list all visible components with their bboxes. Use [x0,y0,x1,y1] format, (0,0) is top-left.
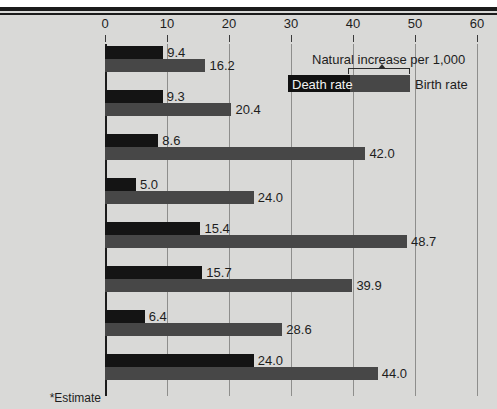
value-label-birth-rate: 39.9 [356,279,381,292]
bar-death-rate [105,46,163,59]
legend-swatch-birth-rate [350,75,410,92]
axis-tick-0 [105,35,106,42]
chart-row: 15.739.9India [105,266,477,292]
value-label-birth-rate: 28.6 [286,323,311,336]
bar-birth-rate [105,235,407,248]
gridline-60 [477,44,478,396]
axis-label-20: 20 [222,16,236,31]
axis-label-50: 50 [408,16,422,31]
bar-birth-rate [105,103,231,116]
axis-label-0: 0 [101,16,108,31]
bar-birth-rate [105,279,352,292]
value-label-death-rate: 15.7 [206,266,231,279]
chart-row: 15.448.7Algeria [105,222,477,248]
bar-death-rate [105,178,136,191]
legend-label-birth-rate: Birth rate [415,77,468,92]
axis-tick-20 [229,35,230,42]
value-label-death-rate: 6.4 [149,310,167,323]
chart-row: 8.642.0Mexico [105,134,477,160]
chart-row: 9.320.4Uruguay [105,90,477,116]
bar-birth-rate [105,323,282,336]
value-label-death-rate: 9.3 [167,90,185,103]
legend-title: Natural increase per 1,000 [312,52,465,67]
value-label-birth-rate: 20.4 [235,103,260,116]
chart-row: 5.024.0China (Taiwan)* [105,178,477,204]
chart-row: 24.044.0Chad [105,354,477,380]
legend-bracket-tick-icon [378,64,386,69]
plot-area: 01020304050609.416.2United States9.320.4… [105,44,477,396]
footnote-estimate: *Estimate [0,391,101,405]
bar-death-rate [105,310,145,323]
chart-row: 6.428.6Sri Lanka [105,310,477,336]
top-rule-thick [0,7,497,11]
axis-tick-50 [415,35,416,42]
bar-death-rate [105,354,254,367]
bar-birth-rate [105,367,378,380]
value-label-death-rate: 15.4 [204,222,229,235]
bar-death-rate [105,90,163,103]
top-rule-thin [0,13,497,15]
axis-tick-40 [353,35,354,42]
value-label-death-rate: 8.6 [162,134,180,147]
bar-birth-rate [105,59,205,72]
value-label-death-rate: 5.0 [140,178,158,191]
axis-tick-10 [167,35,168,42]
bar-birth-rate [105,191,254,204]
axis-tick-60 [477,35,478,42]
value-label-birth-rate: 24.0 [258,191,283,204]
value-label-death-rate: 9.4 [167,46,185,59]
value-label-death-rate: 24.0 [258,354,283,367]
chart-figure: 01020304050609.416.2United States9.320.4… [0,0,497,409]
value-label-birth-rate: 16.2 [209,59,234,72]
axis-label-30: 30 [284,16,298,31]
bar-birth-rate [105,147,365,160]
axis-tick-30 [291,35,292,42]
value-label-birth-rate: 42.0 [369,147,394,160]
axis-label-10: 10 [160,16,174,31]
axis-label-40: 40 [346,16,360,31]
bar-death-rate [105,134,158,147]
legend-label-death-rate: Death rate [292,77,353,92]
value-label-birth-rate: 44.0 [382,367,407,380]
bar-death-rate [105,266,202,279]
bar-death-rate [105,222,200,235]
value-label-birth-rate: 48.7 [411,235,436,248]
axis-label-60: 60 [470,16,484,31]
top-margin [0,0,497,7]
